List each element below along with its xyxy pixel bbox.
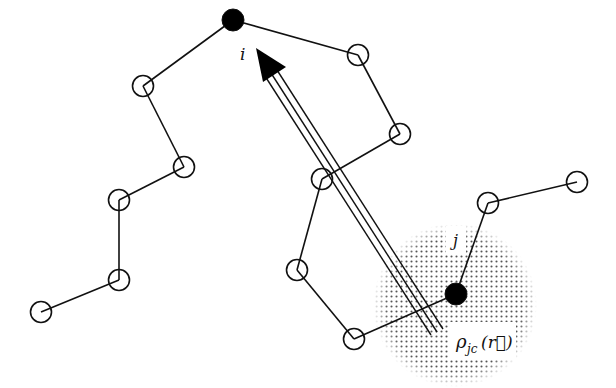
bond xyxy=(488,182,577,203)
polymer-diagram: i j ρ jc (r⃗) xyxy=(0,0,616,388)
monomer-i-filled xyxy=(222,9,244,31)
label-i: i xyxy=(240,44,245,64)
bond xyxy=(41,280,119,312)
bond xyxy=(143,20,233,86)
bond xyxy=(297,179,322,270)
bond xyxy=(322,134,400,179)
bond xyxy=(297,270,354,339)
density-argument: (r⃗) xyxy=(481,332,513,352)
density-rho: ρ xyxy=(455,331,467,352)
bond xyxy=(143,86,184,167)
bond xyxy=(233,20,358,55)
monomer-j-filled xyxy=(445,283,467,305)
density-subscript: jc xyxy=(464,342,478,356)
bond xyxy=(358,55,400,134)
